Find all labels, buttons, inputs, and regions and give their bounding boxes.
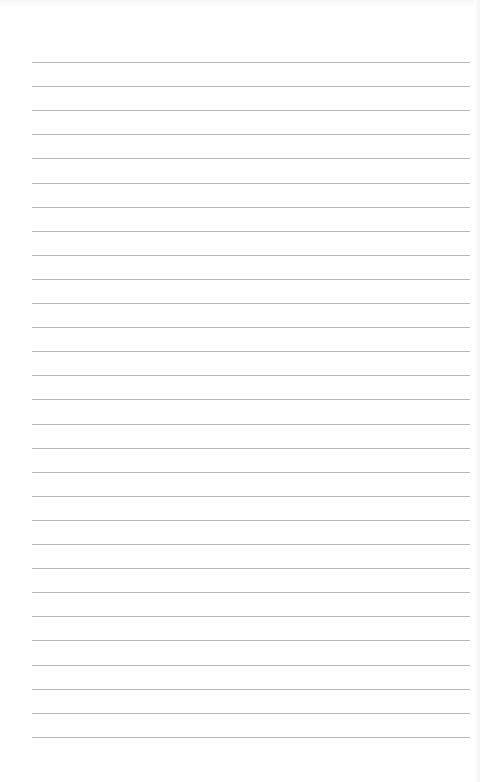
ruled-line: [32, 689, 470, 690]
ruled-line: [32, 134, 470, 135]
ruled-line: [32, 255, 470, 256]
ruled-line: [32, 207, 470, 208]
ruled-line: [32, 327, 470, 328]
ruled-line: [32, 399, 470, 400]
ruled-line: [32, 351, 470, 352]
right-page-edge: [474, 0, 480, 782]
ruled-line: [32, 375, 470, 376]
ruled-line: [32, 640, 470, 641]
ruled-line: [32, 713, 470, 714]
ruled-line: [32, 86, 470, 87]
ruled-line: [32, 665, 470, 666]
ruled-line: [32, 158, 470, 159]
ruled-line: [32, 62, 470, 63]
ruled-line: [32, 231, 470, 232]
ruled-line: [32, 592, 470, 593]
ruled-line: [32, 737, 470, 738]
ruled-line: [32, 616, 470, 617]
ruled-line: [32, 110, 470, 111]
ruled-line: [32, 496, 470, 497]
ruled-line: [32, 520, 470, 521]
ruled-line: [32, 279, 470, 280]
ruled-line: [32, 424, 470, 425]
notepad-page: [0, 0, 480, 782]
ruled-line: [32, 568, 470, 569]
ruled-line: [32, 303, 470, 304]
ruled-line: [32, 544, 470, 545]
ruled-lines: [0, 0, 480, 782]
ruled-line: [32, 183, 470, 184]
ruled-line: [32, 472, 470, 473]
ruled-line: [32, 448, 470, 449]
